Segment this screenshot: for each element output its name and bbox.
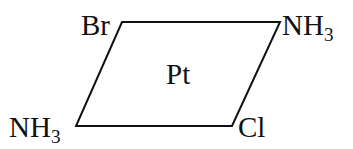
ligand-label-ammine-bottom-left: NH3 (9, 113, 60, 146)
central-metal-label-platinum: Pt (166, 60, 190, 89)
ligand-label-ammine-top-right: NH3 (282, 11, 333, 44)
ammine-formula-text: NH (9, 111, 51, 143)
ammine-formula-text: NH (282, 9, 324, 41)
ligand-label-chlorine: Cl (238, 113, 265, 142)
ammine-subscript: 3 (324, 24, 334, 45)
ammine-subscript: 3 (51, 126, 61, 147)
ligand-label-bromine: Br (81, 11, 110, 40)
chemical-structure-figure: Br NH3 Pt NH3 Cl (0, 0, 353, 149)
